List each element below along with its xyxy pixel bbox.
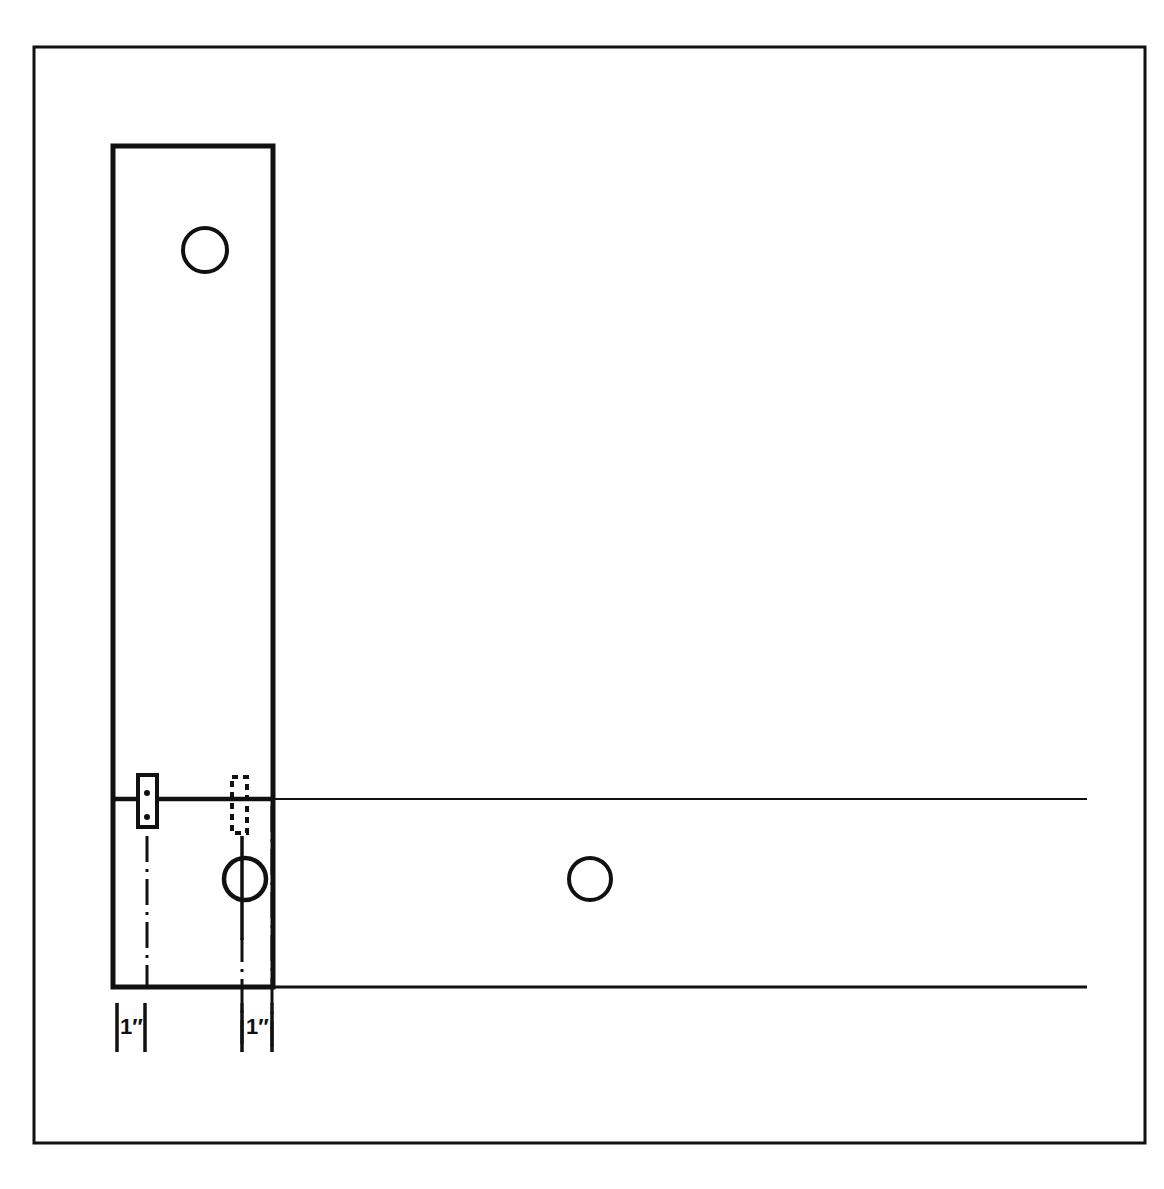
rail-hole bbox=[569, 858, 611, 900]
vertical-post bbox=[113, 146, 273, 987]
dimension-right-label: 1″ bbox=[246, 1014, 269, 1039]
lower-post-hole bbox=[224, 858, 266, 900]
drawing-frame bbox=[34, 47, 1145, 1143]
technical-drawing-canvas: 1″ 1″ bbox=[0, 0, 1164, 1189]
technical-drawing-svg: 1″ 1″ bbox=[0, 0, 1164, 1189]
hinge-fastener-dot-lower bbox=[144, 814, 150, 820]
hidden-mortise bbox=[232, 777, 247, 833]
hinge-fastener-dot-upper bbox=[144, 790, 150, 796]
upper-post-hole bbox=[183, 228, 227, 272]
dimension-left-label: 1″ bbox=[120, 1014, 143, 1039]
